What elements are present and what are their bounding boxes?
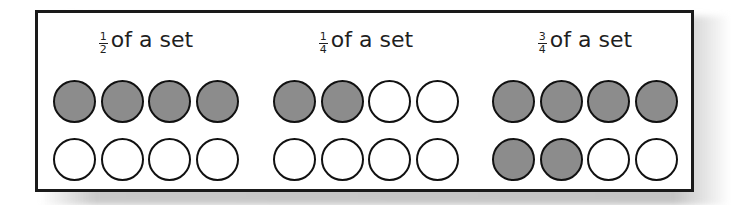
fraction: 3 4 xyxy=(538,31,547,56)
unshaded-counter-icon xyxy=(368,80,411,123)
unshaded-counter-icon xyxy=(368,138,411,181)
group-three-quarters: 3 4 of a set xyxy=(492,13,678,189)
shaded-counter-icon xyxy=(492,80,535,123)
shaded-counter-icon xyxy=(101,80,144,123)
unshaded-counter-icon xyxy=(416,138,459,181)
fraction-denominator: 4 xyxy=(538,44,547,56)
group-label: 1 2 of a set xyxy=(53,27,239,56)
shaded-counter-icon xyxy=(53,80,96,123)
counter-row-2 xyxy=(492,138,678,182)
unshaded-counter-icon xyxy=(321,138,364,181)
unshaded-counter-icon xyxy=(196,138,239,181)
label-text: of a set xyxy=(331,27,413,52)
shaded-counter-icon xyxy=(540,80,583,123)
shaded-counter-icon xyxy=(148,80,191,123)
shaded-counter-icon xyxy=(635,80,678,123)
group-label: 3 4 of a set xyxy=(492,27,678,56)
unshaded-counter-icon xyxy=(587,138,630,181)
shaded-counter-icon xyxy=(273,80,316,123)
shaded-counter-icon xyxy=(587,80,630,123)
fraction: 1 4 xyxy=(319,31,328,56)
counter-row-1 xyxy=(492,80,678,124)
group-label: 1 4 of a set xyxy=(273,27,459,56)
counter-row-1 xyxy=(273,80,459,124)
unshaded-counter-icon xyxy=(101,138,144,181)
shaded-counter-icon xyxy=(492,138,535,181)
fraction: 1 2 xyxy=(99,31,108,56)
shaded-counter-icon xyxy=(196,80,239,123)
unshaded-counter-icon xyxy=(273,138,316,181)
fraction-sets-panel: 1 2 of a set 1 4 of a set 3 4 of a set xyxy=(35,10,694,192)
label-text: of a set xyxy=(550,27,632,52)
shaded-counter-icon xyxy=(321,80,364,123)
label-text: of a set xyxy=(111,27,193,52)
unshaded-counter-icon xyxy=(53,138,96,181)
unshaded-counter-icon xyxy=(148,138,191,181)
unshaded-counter-icon xyxy=(416,80,459,123)
group-one-quarter: 1 4 of a set xyxy=(273,13,459,189)
counter-row-1 xyxy=(53,80,239,124)
group-one-half: 1 2 of a set xyxy=(53,13,239,189)
unshaded-counter-icon xyxy=(635,138,678,181)
shaded-counter-icon xyxy=(540,138,583,181)
fraction-denominator: 2 xyxy=(99,44,108,56)
fraction-denominator: 4 xyxy=(319,44,328,56)
counter-row-2 xyxy=(273,138,459,182)
counter-row-2 xyxy=(53,138,239,182)
